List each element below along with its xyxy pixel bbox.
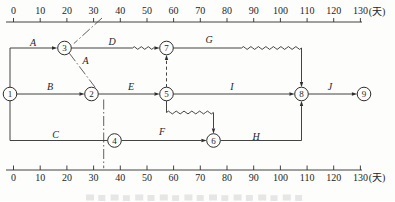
svg-text:10: 10 — [35, 172, 45, 183]
svg-text:30: 30 — [89, 5, 99, 16]
float-link-5-6 — [167, 101, 216, 134]
activity-I-label: I — [229, 81, 234, 92]
svg-text:90: 90 — [249, 172, 259, 183]
activity-F-arrowhead — [201, 139, 206, 142]
svg-text:130: 130 — [353, 5, 368, 16]
node-6: 6 — [207, 134, 221, 148]
svg-text:110: 110 — [300, 5, 315, 16]
svg-text:120: 120 — [326, 5, 341, 16]
node-7-number: 7 — [164, 43, 169, 53]
top-axis-labels: 0 10 20 30 40 50 60 70 80 90 100 110 120… — [11, 5, 385, 18]
activity-C-path — [10, 101, 108, 141]
activity-J-arrowhead — [352, 92, 357, 95]
node-1-number: 1 — [8, 89, 13, 99]
dummy-link-5-7-arrowhead — [165, 55, 168, 60]
activity-B-arrowhead — [79, 92, 84, 95]
node-2: 2 — [85, 87, 99, 101]
svg-text:60: 60 — [169, 172, 179, 183]
network-diagram-figure: 0 10 20 30 40 50 60 70 80 90 100 110 120… — [0, 0, 395, 201]
svg-text:40: 40 — [115, 5, 125, 16]
svg-text:120: 120 — [326, 172, 341, 183]
activity-G-arrowhead — [300, 82, 303, 87]
svg-text:110: 110 — [300, 172, 315, 183]
svg-text:70: 70 — [195, 172, 205, 183]
node-5: 5 — [160, 87, 174, 101]
svg-text:50: 50 — [142, 172, 152, 183]
activity-F: F — [121, 126, 206, 143]
node-7: 7 — [160, 41, 174, 55]
node-8: 8 — [295, 87, 309, 101]
top-time-axis: 0 10 20 30 40 50 60 70 80 90 100 110 120… — [6, 5, 385, 22]
top-axis-unit: (天) — [369, 6, 386, 18]
top-axis-ticks — [14, 18, 361, 22]
activity-C: C — [10, 101, 108, 141]
svg-text:100: 100 — [273, 172, 288, 183]
svg-text:0: 0 — [11, 5, 16, 16]
float-link-5-6-arrowhead — [212, 128, 215, 133]
activity-I: I — [173, 81, 294, 96]
activity-H-label: H — [251, 131, 260, 142]
svg-text:80: 80 — [222, 5, 232, 16]
svg-text:100: 100 — [273, 5, 288, 16]
svg-text:60: 60 — [169, 5, 179, 16]
activity-C-label: C — [52, 129, 59, 140]
node-5-number: 5 — [164, 89, 169, 99]
node-9: 9 — [357, 87, 371, 101]
bottom-time-axis: 0 10 20 30 40 50 60 70 80 90 100 110 120… — [6, 166, 385, 185]
svg-text:130: 130 — [353, 172, 368, 183]
node-2-number: 2 — [89, 89, 94, 99]
activity-H-arrowhead — [300, 101, 303, 106]
activity-D: D — [71, 36, 159, 50]
activity-F-label: F — [158, 126, 166, 137]
dummy-link-5-7 — [165, 55, 168, 87]
activity-D-arrowhead — [154, 46, 159, 49]
activity-B: B — [17, 81, 85, 96]
node-8-number: 8 — [299, 89, 304, 99]
activity-E-label: E — [127, 81, 134, 92]
float-link-5-6-wave — [167, 111, 214, 114]
svg-text:30: 30 — [89, 172, 99, 183]
activity-D-label: D — [107, 36, 116, 47]
node-6-number: 6 — [211, 136, 216, 146]
svg-text:20: 20 — [62, 172, 72, 183]
bottom-axis-unit: (天) — [369, 172, 386, 184]
svg-text:80: 80 — [222, 172, 232, 183]
node-3-number: 3 — [62, 43, 67, 53]
diagram-canvas: 0 10 20 30 40 50 60 70 80 90 100 110 120… — [0, 0, 395, 201]
activity-H-path — [220, 106, 301, 140]
svg-text:20: 20 — [62, 5, 72, 16]
activity-J-label: J — [328, 81, 333, 92]
bottom-axis-ticks — [14, 166, 361, 171]
activity-G: G — [173, 34, 303, 87]
bottom-axis-labels: 0 10 20 30 40 50 60 70 80 90 100 110 120… — [11, 172, 385, 184]
activity-E: E — [98, 81, 159, 96]
svg-text:0: 0 — [11, 172, 16, 183]
progress-front-line-label: A — [81, 55, 89, 66]
svg-text:50: 50 — [142, 5, 152, 16]
svg-text:90: 90 — [249, 5, 259, 16]
node-1: 1 — [3, 87, 17, 101]
node-4-number: 4 — [112, 136, 117, 146]
node-9-number: 9 — [362, 89, 367, 99]
activity-D-float-wave — [133, 47, 155, 50]
activity-I-arrowhead — [289, 92, 294, 95]
activity-B-label: B — [47, 81, 53, 92]
svg-text:10: 10 — [35, 5, 45, 16]
activity-A-label: A — [29, 37, 37, 48]
activity-G-float-wave — [242, 47, 302, 50]
activity-G-label: G — [205, 34, 212, 45]
activity-A-arrowhead — [52, 46, 57, 49]
activity-H: H — [220, 101, 303, 142]
cut-off-caption — [86, 195, 302, 202]
svg-text:70: 70 — [195, 5, 205, 16]
node-3: 3 — [58, 41, 72, 55]
activity-J: J — [308, 81, 357, 96]
svg-text:40: 40 — [115, 172, 125, 183]
activity-E-arrowhead — [154, 92, 159, 95]
node-4: 4 — [108, 134, 122, 148]
